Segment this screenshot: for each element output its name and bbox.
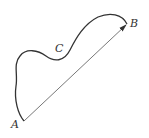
label-b: B — [129, 17, 138, 30]
path-diagram: A B C — [0, 0, 149, 138]
label-c: C — [55, 42, 64, 55]
label-a: A — [10, 118, 19, 131]
vector-ab — [24, 25, 126, 121]
curve-c — [15, 14, 127, 121]
